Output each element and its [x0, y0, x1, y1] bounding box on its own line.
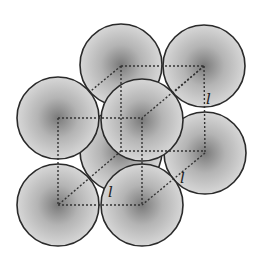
edge-label-back-right: l [206, 90, 211, 108]
simple-cubic-unit-cell-diagram: l l l [0, 0, 266, 266]
edge-label-right-bottom: l [180, 169, 185, 187]
edge-label-front-bottom: l [108, 183, 113, 201]
